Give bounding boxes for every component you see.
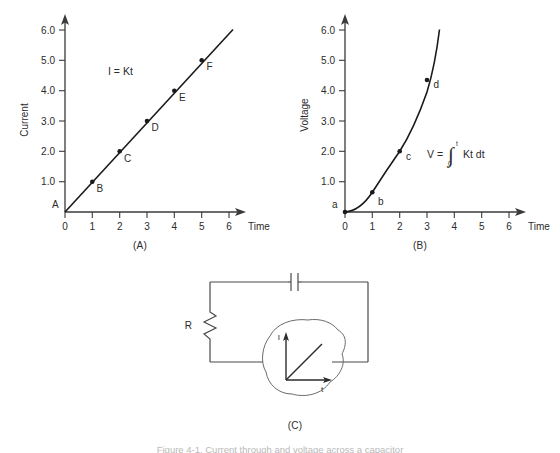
datapoint-label-a: a bbox=[332, 199, 338, 210]
chart-b-x-ticks bbox=[345, 212, 509, 218]
chart-b-xlabel: Time bbox=[528, 221, 550, 232]
x-ticklabel: 4 bbox=[172, 221, 178, 232]
datapoint-label-D: D bbox=[152, 122, 159, 133]
chart-a-y-ticklabels: 1.0 2.0 3.0 4.0 5.0 6.0 bbox=[41, 25, 55, 188]
datapoint-F bbox=[199, 58, 204, 63]
y-ticklabel: 1.0 bbox=[321, 176, 335, 187]
datapoint-b bbox=[370, 190, 375, 195]
datapoint-label-F: F bbox=[207, 61, 213, 72]
y-ticklabel: 5.0 bbox=[41, 55, 55, 66]
chart-b-datapoints bbox=[343, 78, 430, 215]
blob-inset-graph: I t bbox=[278, 332, 332, 394]
x-ticklabel: 0 bbox=[62, 221, 68, 232]
chart-a-point-labels: A B C D E F bbox=[52, 61, 213, 210]
chart-a-x-ticklabels: 0 1 2 3 4 5 6 bbox=[62, 221, 232, 232]
chart-a-xlabel: Time bbox=[248, 221, 270, 232]
chart-b-y-axis bbox=[341, 14, 349, 212]
x-ticklabel: 2 bbox=[117, 221, 123, 232]
y-ticklabel: 6.0 bbox=[41, 25, 55, 36]
panel-label-a: (A) bbox=[0, 240, 280, 251]
chart-b-point-labels: a b c d bbox=[332, 79, 439, 210]
circuit-wires bbox=[210, 282, 368, 362]
chart-b-y-ticks bbox=[339, 30, 345, 182]
figure-caption: Figure 4-1. Current through and voltage … bbox=[0, 444, 560, 453]
chart-a-y-ticks bbox=[59, 30, 65, 182]
chart-a-svg: 1.0 2.0 3.0 4.0 5.0 6.0 0 1 2 bbox=[0, 0, 280, 240]
x-ticklabel: 5 bbox=[479, 221, 485, 232]
y-ticklabel: 1.0 bbox=[41, 176, 55, 187]
panel-label-c: (C) bbox=[150, 420, 440, 431]
y-ticklabel: 4.0 bbox=[321, 85, 335, 96]
chart-b-y-ticklabels: 1.0 2.0 3.0 4.0 5.0 6.0 bbox=[321, 25, 335, 188]
chart-b-dataline bbox=[345, 30, 440, 213]
y-ticklabel: 3.0 bbox=[41, 116, 55, 127]
chart-panel-a: 1.0 2.0 3.0 4.0 5.0 6.0 0 1 2 bbox=[0, 0, 280, 258]
x-ticklabel: 2 bbox=[397, 221, 403, 232]
capacitor-icon bbox=[288, 273, 302, 291]
x-ticklabel: 1 bbox=[370, 221, 376, 232]
y-ticklabel: 4.0 bbox=[41, 85, 55, 96]
datapoint-label-b: b bbox=[378, 196, 384, 207]
datapoint-label-c: c bbox=[406, 151, 411, 162]
chart-a-ylabel: Current bbox=[19, 103, 30, 137]
resistor-icon bbox=[204, 308, 216, 344]
x-ticklabel: 4 bbox=[452, 221, 458, 232]
x-ticklabel: 6 bbox=[226, 221, 232, 232]
y-ticklabel: 5.0 bbox=[321, 55, 335, 66]
inset-ylabel: I bbox=[278, 333, 280, 342]
datapoint-E bbox=[172, 88, 177, 93]
datapoint-d bbox=[425, 78, 430, 83]
annotation-lhs: V = bbox=[427, 148, 443, 160]
circuit-svg: R I t bbox=[150, 262, 440, 422]
datapoint-label-E: E bbox=[179, 92, 186, 103]
datapoint-D bbox=[145, 119, 150, 124]
circuit-blob bbox=[263, 319, 346, 395]
y-ticklabel: 6.0 bbox=[321, 25, 335, 36]
x-ticklabel: 5 bbox=[199, 221, 205, 232]
datapoint-label-A: A bbox=[52, 199, 59, 210]
resistor-label: R bbox=[185, 320, 192, 331]
x-ticklabel: 3 bbox=[424, 221, 430, 232]
datapoint-label-d: d bbox=[434, 79, 440, 90]
datapoint-label-B: B bbox=[97, 183, 104, 194]
annotation-integrand: Kt dt bbox=[463, 148, 485, 160]
integral-upper-limit: t bbox=[456, 140, 458, 147]
integral-lower-limit: 0 bbox=[448, 160, 452, 167]
datapoint-B bbox=[90, 179, 95, 184]
panel-label-b: (B) bbox=[280, 240, 560, 251]
datapoint-C bbox=[117, 149, 122, 154]
x-ticklabel: 1 bbox=[90, 221, 96, 232]
circuit-panel-c: R I t (C) bbox=[150, 262, 440, 442]
chart-b-x-ticklabels: 0 1 2 3 4 5 6 bbox=[342, 221, 512, 232]
chart-b-annotation: V = ∫ t 0 Kt dt bbox=[427, 140, 485, 168]
y-ticklabel: 3.0 bbox=[321, 116, 335, 127]
figure-root: 1.0 2.0 3.0 4.0 5.0 6.0 0 1 2 bbox=[0, 0, 560, 453]
chart-b-ylabel: Voltage bbox=[299, 98, 310, 132]
chart-a-annotation: I = Kt bbox=[108, 65, 133, 77]
chart-a-y-axis bbox=[61, 14, 69, 212]
datapoint-c bbox=[397, 149, 402, 154]
datapoint-label-C: C bbox=[124, 153, 131, 164]
y-ticklabel: 2.0 bbox=[41, 146, 55, 157]
chart-panel-b: 1.0 2.0 3.0 4.0 5.0 6.0 0 1 2 bbox=[280, 0, 560, 258]
x-ticklabel: 3 bbox=[144, 221, 150, 232]
x-ticklabel: 0 bbox=[342, 221, 348, 232]
chart-b-svg: 1.0 2.0 3.0 4.0 5.0 6.0 0 1 2 bbox=[280, 0, 560, 240]
chart-a-x-ticks bbox=[65, 212, 229, 218]
datapoint-a bbox=[343, 210, 348, 215]
y-ticklabel: 2.0 bbox=[321, 146, 335, 157]
x-ticklabel: 6 bbox=[506, 221, 512, 232]
